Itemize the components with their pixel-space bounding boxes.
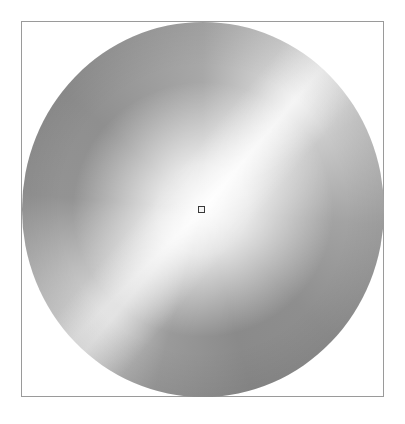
center-marker-handle[interactable] xyxy=(198,206,205,213)
